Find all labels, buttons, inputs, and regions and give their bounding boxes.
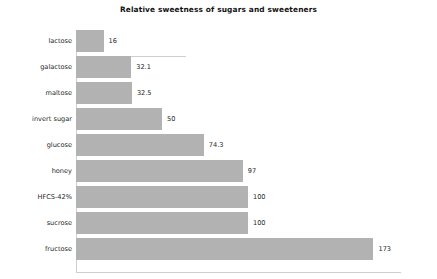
bar	[76, 134, 204, 156]
chart-figure: Relative sweetness of sugars and sweeten…	[0, 0, 437, 279]
category-label: galactose	[0, 56, 72, 78]
bar	[76, 108, 162, 130]
bar	[76, 238, 373, 260]
bar-row: glucose74.3	[0, 134, 437, 160]
bar-row: galactose32.1	[0, 56, 437, 82]
bar-row: lactose16	[0, 30, 437, 56]
bar-row: sucrose100	[0, 212, 437, 238]
category-label: invert sugar	[0, 108, 72, 130]
category-label: maltose	[0, 82, 72, 104]
bar-value-label: 100	[253, 186, 266, 208]
bar	[76, 160, 243, 182]
bar	[76, 56, 131, 78]
bar-value-label: 32.5	[137, 82, 152, 104]
bar-row: fructose173	[0, 238, 437, 264]
category-label: HFCS-42%	[0, 186, 72, 208]
category-label: lactose	[0, 30, 72, 52]
bar	[76, 212, 248, 234]
category-label: fructose	[0, 238, 72, 260]
bar	[76, 30, 104, 52]
bar	[76, 82, 132, 104]
bar-value-label: 50	[167, 108, 175, 130]
plot-area: lactose16galactose32.1maltose32.5invert …	[0, 30, 437, 275]
bar-value-label: 16	[109, 30, 117, 52]
bar-value-label: 32.1	[136, 56, 151, 78]
bar	[76, 186, 248, 208]
bar-row: HFCS-42%100	[0, 186, 437, 212]
category-label: glucose	[0, 134, 72, 156]
bar-value-label: 74.3	[209, 134, 224, 156]
category-label: sucrose	[0, 212, 72, 234]
bar-value-label: 97	[248, 160, 256, 182]
category-label: honey	[0, 160, 72, 182]
bar-value-label: 173	[378, 238, 391, 260]
bar-row: invert sugar50	[0, 108, 437, 134]
bar-value-label: 100	[253, 212, 266, 234]
bar-row: honey97	[0, 160, 437, 186]
chart-title: Relative sweetness of sugars and sweeten…	[0, 5, 437, 14]
bar-row: maltose32.5	[0, 82, 437, 108]
